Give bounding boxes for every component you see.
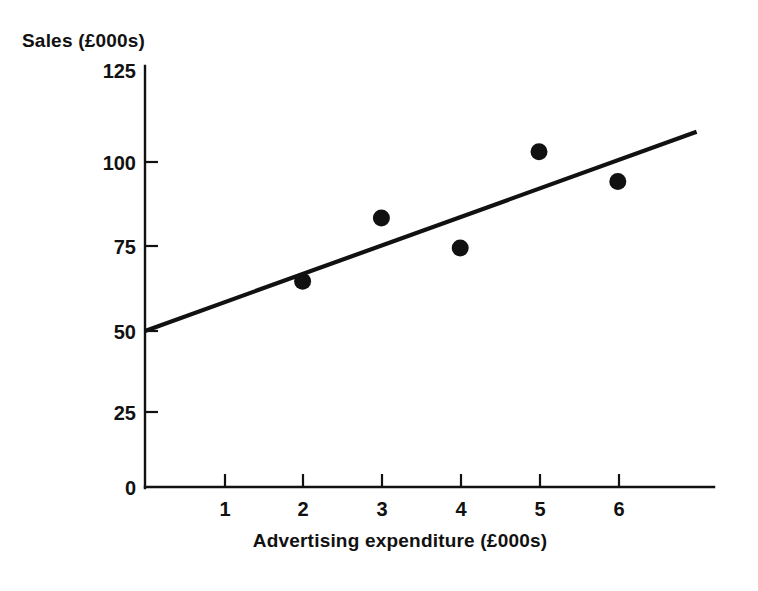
plot-canvas: 125 100 75 50 25 0 1 2 3 4 5 6 [0,0,758,591]
x-tick-label-3: 3 [376,498,387,520]
data-point [452,239,469,256]
data-point [294,273,311,290]
x-tick-label-6: 6 [613,498,624,520]
y-tick-label-125: 125 [103,60,136,82]
y-tick-label-25: 25 [114,402,136,424]
y-tick-label-75: 75 [114,236,136,258]
y-tick-label-0: 0 [125,477,136,499]
data-point [531,143,548,160]
y-tick-label-50: 50 [114,321,136,343]
x-axis-title: Advertising expenditure (£000s) [253,530,547,552]
scatter-plot-figure: Sales (£000s) 125 100 75 50 25 0 [0,0,758,591]
y-tick-marks [145,162,158,412]
x-axis-title-wrapper: Advertising expenditure (£000s) [0,530,758,552]
x-tick-label-1: 1 [219,498,230,520]
x-tick-label-5: 5 [534,498,545,520]
regression-trend-line [145,132,697,331]
data-point [609,173,626,190]
y-tick-label-100: 100 [103,152,136,174]
x-tick-label-2: 2 [297,498,308,520]
data-point [373,210,390,227]
x-tick-label-4: 4 [455,498,467,520]
x-tick-marks [225,474,619,487]
figure-caption [0,578,758,591]
